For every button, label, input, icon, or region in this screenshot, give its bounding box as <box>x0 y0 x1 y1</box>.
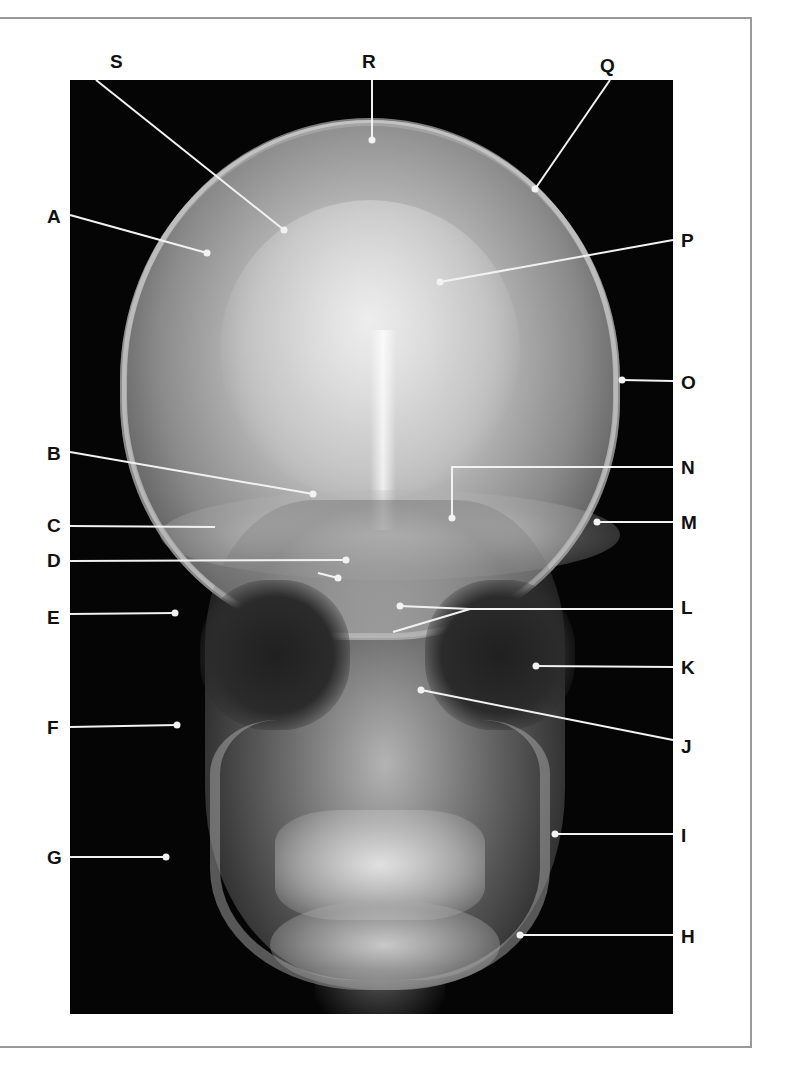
label-e: E <box>47 608 60 627</box>
label-m: M <box>681 513 697 532</box>
label-i: I <box>681 826 686 845</box>
leader-line-p <box>440 240 673 282</box>
pointer-dot-i <box>552 831 559 838</box>
pointer-dot-p <box>437 279 444 286</box>
pointer-dot-d2 <box>335 575 342 582</box>
leader-line-o <box>622 380 673 381</box>
leader-line-j <box>421 690 673 740</box>
label-b: B <box>47 444 61 463</box>
pointer-dot-d1 <box>343 557 350 564</box>
pointer-dot-a <box>204 250 211 257</box>
label-q: Q <box>600 56 615 75</box>
leader-line-q <box>535 80 610 189</box>
pointer-dot-l1 <box>397 603 404 610</box>
leader-line-e <box>70 613 175 614</box>
label-n: N <box>681 458 695 477</box>
label-j: J <box>681 737 692 756</box>
leader-line-n <box>452 467 673 518</box>
leader-lines <box>0 0 792 1077</box>
pointer-dot-s <box>281 227 288 234</box>
label-l: L <box>681 598 693 617</box>
leader-line-c <box>70 526 215 527</box>
label-o: O <box>681 373 696 392</box>
pointer-dot-k <box>533 663 540 670</box>
leader-line-b <box>70 452 313 494</box>
pointer-dot-e <box>172 610 179 617</box>
pointer-dot-b <box>310 491 317 498</box>
leader-line-k <box>536 666 673 667</box>
pointer-dot-n <box>449 515 456 522</box>
pointer-dot-h <box>517 932 524 939</box>
label-k: K <box>681 658 695 677</box>
label-a: A <box>47 207 61 226</box>
label-h: H <box>681 927 695 946</box>
pointer-dot-r <box>369 137 376 144</box>
label-c: C <box>47 516 61 535</box>
label-r: R <box>362 52 376 71</box>
label-f: F <box>47 718 59 737</box>
leader-line-d1 <box>70 560 346 561</box>
label-p: P <box>681 231 694 250</box>
label-s: S <box>110 52 123 71</box>
pointer-dot-q <box>532 186 539 193</box>
leader-line-a <box>70 215 207 253</box>
leader-line-l2 <box>393 609 470 632</box>
pointer-dot-m <box>594 519 601 526</box>
label-d: D <box>47 551 61 570</box>
pointer-dot-j <box>418 687 425 694</box>
pointer-dot-o <box>619 377 626 384</box>
pointer-dot-f <box>174 722 181 729</box>
pointer-dot-g <box>163 854 170 861</box>
leader-line-f <box>70 725 177 727</box>
leader-line-l1 <box>400 606 673 609</box>
label-g: G <box>47 848 62 867</box>
leader-line-s <box>96 80 284 230</box>
